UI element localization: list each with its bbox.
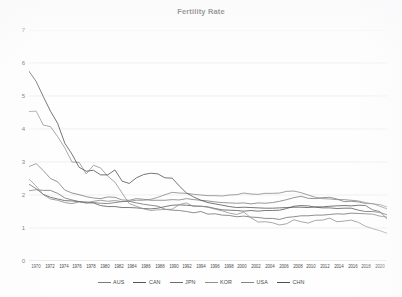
x-tick-label: 1972: [43, 262, 56, 274]
y-tick-label: 5: [22, 93, 25, 99]
legend-swatch-icon: [170, 282, 183, 283]
series-lines: [29, 71, 387, 233]
legend-item-can[interactable]: CAN: [133, 279, 160, 285]
x-tick-label: 1996: [208, 262, 221, 274]
x-tick-label: 1998: [222, 262, 235, 274]
series-line-jpn: [29, 190, 387, 220]
legend-label: JPN: [185, 279, 195, 285]
x-tick-label: 1986: [139, 262, 152, 274]
chart-legend: AUSCANJPNKORUSACHN: [0, 279, 402, 285]
legend-item-chn[interactable]: CHN: [277, 279, 304, 285]
plot-area: 01234567: [29, 30, 387, 261]
x-tick-label: 1988: [153, 262, 166, 274]
x-tick-label: 2008: [291, 262, 304, 274]
series-line-kor: [29, 111, 387, 233]
legend-label: AUS: [113, 279, 124, 285]
x-tick-label: 1976: [71, 262, 84, 274]
x-tick-label: 1978: [84, 262, 97, 274]
x-tick-label: 2004: [263, 262, 276, 274]
gridlines: [29, 30, 387, 261]
legend-swatch-icon: [98, 282, 111, 283]
x-tick-label: 1970: [29, 262, 42, 274]
x-tick-label: 2016: [346, 262, 359, 274]
x-tick-label: 2002: [250, 262, 263, 274]
y-tick-label: 3: [22, 159, 25, 165]
x-tick-label: 1974: [57, 262, 70, 274]
legend-label: KOR: [220, 279, 232, 285]
x-tick-label: 1982: [112, 262, 125, 274]
x-tick-label: 2012: [318, 262, 331, 274]
series-line-chn: [29, 71, 387, 219]
y-tick-label: 2: [22, 192, 25, 198]
y-tick-label: 6: [22, 60, 25, 66]
legend-item-aus[interactable]: AUS: [98, 279, 125, 285]
y-tick-label: 0: [22, 258, 25, 264]
x-tick-label: 2020: [373, 262, 386, 274]
x-tick-label: 1992: [181, 262, 194, 274]
x-tick-label: 1990: [167, 262, 180, 274]
legend-swatch-icon: [241, 282, 254, 283]
x-tick-label: 2014: [332, 262, 345, 274]
legend-swatch-icon: [133, 282, 146, 283]
chart-title: Fertility Rate: [0, 7, 402, 16]
legend-item-kor[interactable]: KOR: [205, 279, 232, 285]
x-axis-ticks: 1970197219741976197819801982198419861988…: [29, 262, 387, 274]
legend-label: USA: [257, 279, 268, 285]
plot-svg: [29, 30, 387, 261]
legend-swatch-icon: [205, 282, 218, 283]
legend-swatch-icon: [277, 282, 290, 283]
x-tick-label: 2000: [236, 262, 249, 274]
legend-label: CAN: [149, 279, 161, 285]
x-tick-label: 2006: [277, 262, 290, 274]
legend-item-jpn[interactable]: JPN: [170, 279, 196, 285]
y-tick-label: 7: [22, 27, 25, 33]
legend-label: CHN: [292, 279, 304, 285]
fertility-rate-chart: Fertility Rate 01234567 1970197219741976…: [0, 0, 402, 297]
x-tick-label: 2018: [360, 262, 373, 274]
y-tick-label: 1: [22, 225, 25, 231]
x-tick-label: 1984: [126, 262, 139, 274]
x-tick-label: 1994: [194, 262, 207, 274]
x-tick-label: 1980: [98, 262, 111, 274]
x-tick-label: 2010: [305, 262, 318, 274]
legend-item-usa[interactable]: USA: [241, 279, 268, 285]
y-tick-label: 4: [22, 126, 25, 132]
